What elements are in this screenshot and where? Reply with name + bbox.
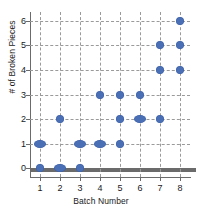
data-point xyxy=(177,66,184,73)
x-tick-label: 3 xyxy=(70,183,90,193)
data-point xyxy=(157,42,164,49)
data-point xyxy=(137,91,144,98)
data-point xyxy=(97,91,104,98)
gridline-horizontal xyxy=(30,21,190,22)
x-tick-mark xyxy=(80,177,81,181)
x-tick-label: 6 xyxy=(130,183,150,193)
x-axis-line xyxy=(30,177,191,178)
data-point xyxy=(177,42,184,49)
y-tick-mark xyxy=(26,119,30,120)
y-tick-mark xyxy=(26,168,30,169)
x-tick-mark xyxy=(60,177,61,181)
data-point xyxy=(117,140,124,147)
data-point xyxy=(117,116,124,123)
y-tick-mark xyxy=(26,144,30,145)
y-tick-label: 5 xyxy=(4,40,26,50)
gridline-vertical xyxy=(40,12,41,177)
gridline-vertical xyxy=(80,12,81,177)
x-tick-mark xyxy=(160,177,161,181)
x-tick-mark xyxy=(140,177,141,181)
y-tick-label: 4 xyxy=(4,65,26,75)
data-point xyxy=(95,140,106,147)
plot-area xyxy=(30,12,190,177)
scatter-plot-figure: # of Broken Pieces Batch Number 0123456 … xyxy=(0,0,202,213)
x-tick-mark xyxy=(40,177,41,181)
y-tick-label: 3 xyxy=(4,90,26,100)
data-point xyxy=(117,91,124,98)
y-tick-mark xyxy=(26,21,30,22)
data-point xyxy=(37,165,44,172)
data-point xyxy=(57,116,64,123)
data-point xyxy=(177,17,184,24)
x-tick-label: 2 xyxy=(50,183,70,193)
x-axis-title: Batch Number xyxy=(0,196,202,206)
x-tick-mark xyxy=(100,177,101,181)
gridline-horizontal xyxy=(30,119,190,120)
x-tick-mark xyxy=(120,177,121,181)
gridline-vertical xyxy=(60,12,61,177)
x-tick-label: 1 xyxy=(30,183,50,193)
data-point xyxy=(157,66,164,73)
y-tick-label: 1 xyxy=(4,139,26,149)
y-tick-mark xyxy=(26,45,30,46)
y-tick-label: 2 xyxy=(4,114,26,124)
data-point xyxy=(35,140,46,147)
y-tick-mark xyxy=(26,70,30,71)
data-point xyxy=(135,116,146,123)
gridline-horizontal xyxy=(30,144,190,145)
x-tick-label: 8 xyxy=(170,183,190,193)
gridline-horizontal xyxy=(30,70,190,71)
x-tick-label: 4 xyxy=(90,183,110,193)
x-tick-label: 7 xyxy=(150,183,170,193)
data-point xyxy=(77,165,84,172)
gridline-horizontal xyxy=(30,95,190,96)
gridline-horizontal xyxy=(30,45,190,46)
data-point xyxy=(75,140,86,147)
data-point xyxy=(55,165,66,172)
x-tick-label: 5 xyxy=(110,183,130,193)
data-point xyxy=(157,116,164,123)
y-tick-label: 6 xyxy=(4,16,26,26)
gridline-vertical xyxy=(160,12,161,177)
y-tick-label: 0 xyxy=(4,163,26,173)
y-tick-mark xyxy=(26,95,30,96)
gridline-vertical xyxy=(180,12,181,177)
x-tick-mark xyxy=(180,177,181,181)
